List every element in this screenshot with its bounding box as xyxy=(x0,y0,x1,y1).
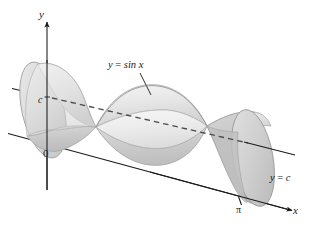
x-axis-label: x xyxy=(293,205,298,216)
curve-label-expression: sin x xyxy=(124,59,144,70)
x-tick-label-pi: π xyxy=(236,205,241,215)
axis-label-equals: = xyxy=(275,172,286,183)
origin-label: 0 xyxy=(43,148,49,159)
curve-equation-label: y = sin x xyxy=(108,60,143,71)
solid-of-revolution xyxy=(12,58,282,210)
curve-label-equals: = xyxy=(113,59,124,70)
figure-canvas xyxy=(0,0,309,235)
axis-label-expression: c xyxy=(286,172,291,183)
axis-of-revolution-equation-label: y = c xyxy=(270,173,291,184)
left-lobe-body xyxy=(26,63,96,136)
y-axis-label: y xyxy=(39,9,44,20)
solid-of-revolution-figure: y x 0 c π y = sin x y = c xyxy=(0,0,309,235)
y-tick-label-c: c xyxy=(38,95,42,105)
